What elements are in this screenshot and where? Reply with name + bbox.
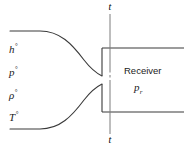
inlet-symbol-p: p <box>9 66 15 78</box>
receiver-pressure-subscript: r <box>140 88 143 96</box>
inlet-superscript-T: ° <box>16 110 19 118</box>
throat-label-bottom: t <box>109 134 112 145</box>
inlet-label-density: ρ° <box>9 89 18 101</box>
inlet-superscript-rho: ° <box>15 88 18 96</box>
inlet-symbol-h: h <box>9 43 15 55</box>
inlet-symbol-T: T <box>9 111 15 123</box>
inlet-label-pressure: p° <box>9 66 18 78</box>
inlet-label-temperature: T° <box>9 111 18 123</box>
upper-nozzle-wall <box>10 31 102 76</box>
receiver-title: Receiver <box>124 66 162 76</box>
inlet-superscript-h: ° <box>15 42 18 50</box>
nozzle-receiver-figure: t t h° p° ρ° T° Receiver pr <box>0 0 186 146</box>
lower-nozzle-wall <box>10 84 102 129</box>
inlet-symbol-rho: ρ <box>9 89 14 101</box>
inlet-superscript-p: ° <box>15 65 18 73</box>
receiver-pressure-label: pr <box>134 82 143 96</box>
receiver-pressure-symbol: p <box>134 81 140 93</box>
inlet-label-enthalpy: h° <box>9 43 18 55</box>
throat-label-top: t <box>109 1 112 12</box>
